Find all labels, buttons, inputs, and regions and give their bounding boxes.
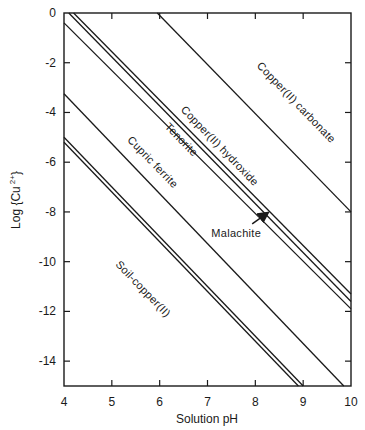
series-labels: Copper(II) carbonateCopper(II) hydroxide…	[114, 59, 339, 319]
series-label: Soil-copper(II)	[114, 258, 174, 319]
series-label: Cupric ferrite	[125, 134, 180, 191]
x-tick-label: 6	[156, 395, 163, 409]
y-tick-label: -8	[45, 205, 56, 219]
y-tick-label: 0	[49, 6, 56, 20]
series-line	[64, 142, 298, 386]
y-tick-label: -2	[45, 56, 56, 70]
x-tick-label: 10	[344, 395, 358, 409]
series-line	[69, 13, 351, 302]
series-lines	[64, 13, 351, 386]
y-axis: 0-2-4-6-8-10-12-14	[39, 6, 351, 368]
series-label: Malachite	[211, 227, 261, 239]
x-tick-label: 8	[252, 395, 259, 409]
x-tick-label: 9	[300, 395, 307, 409]
y-tick-label: -10	[39, 255, 57, 269]
series-line	[64, 137, 303, 386]
series-line	[74, 13, 351, 294]
y-tick-label: -14	[39, 354, 57, 368]
y-axis-title: Log {Cu2+}	[8, 171, 23, 229]
y-tick-label: -12	[39, 304, 57, 318]
x-axis: 45678910	[61, 13, 358, 409]
series-label: Copper(II) carbonate	[255, 59, 338, 145]
plot-frame	[64, 13, 351, 386]
x-axis-title: Solution pH	[176, 412, 238, 426]
x-tick-label: 7	[204, 395, 211, 409]
y-tick-label: -4	[45, 105, 56, 119]
series-line	[64, 23, 351, 309]
malachite-arrow-icon	[252, 213, 267, 224]
x-tick-label: 5	[108, 395, 115, 409]
x-tick-label: 4	[61, 395, 68, 409]
log-cu-vs-ph-chart: 45678910 0-2-4-6-8-10-12-14 Solution pH …	[0, 0, 365, 430]
y-tick-label: -6	[45, 155, 56, 169]
